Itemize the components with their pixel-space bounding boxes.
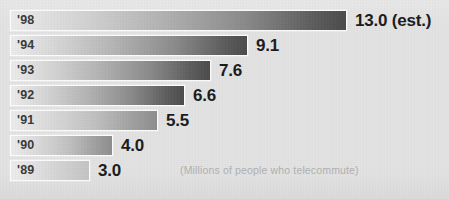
bar-value-label: 13.0 (est.) (355, 10, 431, 31)
bar-row: '92 (10, 85, 305, 106)
bar (10, 10, 347, 31)
bar (10, 35, 248, 56)
bar-value-label: 9.1 (256, 35, 279, 56)
bar-row: '93 (10, 60, 331, 81)
chart-caption: (Millions of people who telecommute) (180, 163, 359, 177)
bar-category-label: '98 (17, 10, 34, 31)
bar-category-label: '89 (17, 160, 34, 181)
bar-value-label: 3.0 (98, 160, 121, 181)
bar-category-label: '92 (17, 85, 34, 106)
bar-fill (11, 36, 247, 55)
telecommuting-bar-chart: '9813.0 (est.)'949.1'937.6'926.6'915.5'9… (0, 0, 449, 199)
bar-value-label: 6.6 (193, 85, 216, 106)
bar-value-label: 4.0 (121, 135, 144, 156)
bar-value-label: 7.6 (219, 60, 242, 81)
bar-category-label: '93 (17, 60, 34, 81)
bar-fill (11, 11, 346, 30)
bar-category-label: '94 (17, 35, 34, 56)
bar-fill (11, 86, 184, 105)
bar-row: '94 (10, 35, 368, 56)
bar (10, 60, 211, 81)
bar (10, 85, 185, 106)
bar-fill (11, 61, 210, 80)
bar-category-label: '91 (17, 110, 34, 131)
bar-value-label: 5.5 (166, 110, 189, 131)
bar-category-label: '90 (17, 135, 34, 156)
bar-row: '91 (10, 110, 278, 131)
